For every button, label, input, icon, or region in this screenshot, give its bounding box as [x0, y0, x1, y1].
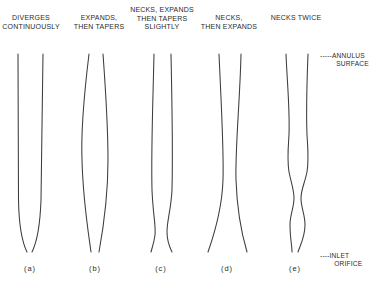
label-b: (b)	[80, 264, 110, 273]
profile-a-left-wall	[18, 54, 27, 252]
label-a: (a)	[15, 264, 45, 273]
profile-e	[286, 54, 308, 252]
profile-c	[151, 54, 172, 252]
profile-e-right-wall	[298, 54, 308, 252]
label-d: (d)	[212, 264, 242, 273]
profile-e-left-wall	[286, 54, 294, 252]
profile-b-right-wall	[99, 54, 108, 252]
label-e: (e)	[280, 264, 310, 273]
profile-d	[208, 54, 247, 252]
profile-d-left-wall	[208, 54, 223, 252]
profile-c-right-wall	[167, 54, 172, 252]
label-c: (c)	[146, 264, 176, 273]
profile-b	[82, 54, 108, 252]
profile-a-right-wall	[32, 54, 43, 252]
profile-d-right-wall	[236, 54, 247, 252]
profile-a	[18, 54, 43, 252]
profile-c-left-wall	[151, 54, 155, 252]
profiles-figure	[0, 0, 387, 283]
profile-b-left-wall	[82, 54, 91, 252]
